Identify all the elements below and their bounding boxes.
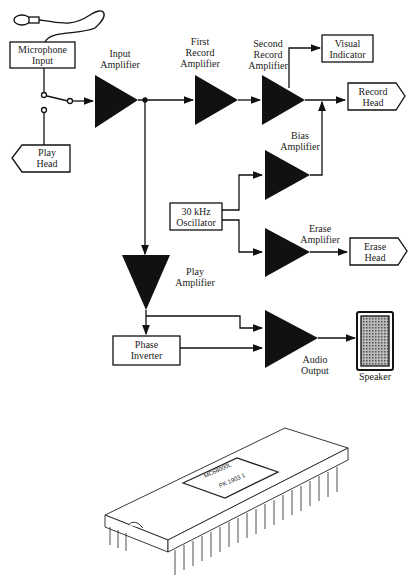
ic-chip-illustration [105,428,348,575]
play-head-label: Play Head [24,147,70,169]
play-amplifier-icon [122,255,170,310]
bias-amplifier-label: Bias Amplifier [270,130,330,152]
microphone-icon [14,11,104,42]
input-amplifier-label: Input Amplifier [90,48,150,70]
input-amplifier-icon [95,75,138,128]
first-record-amplifier-label: First Record Amplifier [170,36,230,69]
play-amplifier-label: Play Amplifier [165,266,225,288]
phase-inverter-label: Phase Inverter [113,339,180,361]
bias-amplifier-icon [265,150,310,200]
visual-indicator-label: Visual Indicator [322,38,373,60]
second-record-amplifier-label: Second Record Amplifier [238,38,298,71]
audio-output-label: Audio Output [290,354,340,376]
speaker-label: Speaker [350,371,400,382]
erase-head-label: Erase Head [350,241,400,263]
microphone-input-label: Microphone Input [10,44,75,66]
first-record-amplifier-icon [195,75,238,125]
oscillator-label: 30 kHz Oscillator [170,206,222,228]
record-head-label: Record Head [348,86,398,108]
erase-amplifier-label: Erase Amplifier [290,223,350,245]
second-record-amplifier-icon [262,75,305,125]
speaker-icon [357,312,393,370]
